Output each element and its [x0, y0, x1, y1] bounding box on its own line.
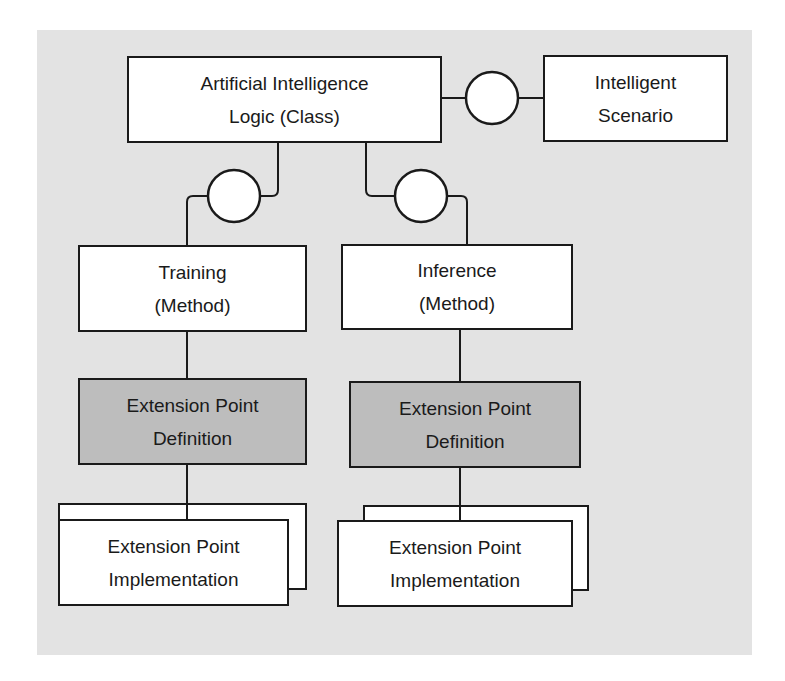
ai-logic-label-line2: Logic (Class)	[229, 100, 340, 133]
training-label-line1: Training	[159, 256, 227, 289]
scenario-label-line2: Scenario	[598, 99, 673, 132]
connector-ai-to-training-interface	[260, 142, 278, 196]
inference-implementation-label-line2: Implementation	[390, 564, 520, 597]
training-implementation-label-line2: Implementation	[109, 563, 239, 596]
scenario-label-line1: Intelligent	[595, 66, 676, 99]
inference-definition-label-line2: Definition	[425, 425, 504, 458]
inference-label-line1: Inference	[417, 254, 496, 287]
inference-extension-point-definition-box: Extension Point Definition	[349, 381, 581, 468]
training-interface-circle	[208, 170, 260, 222]
training-implementation-label-line1: Extension Point	[107, 530, 239, 563]
inference-implementation-label-line1: Extension Point	[389, 531, 521, 564]
inference-method-box: Inference (Method)	[341, 244, 573, 330]
training-definition-label-line1: Extension Point	[126, 389, 258, 422]
connector-inference-interface-to-inference	[447, 196, 467, 244]
training-definition-label-line2: Definition	[153, 422, 232, 455]
ai-logic-class-box: Artificial Intelligence Logic (Class)	[127, 56, 442, 143]
intelligent-scenario-box: Intelligent Scenario	[543, 55, 728, 142]
training-extension-point-implementation-box: Extension Point Implementation	[58, 519, 289, 606]
connector-training-interface-to-training	[187, 196, 208, 245]
scenario-interface-circle	[466, 72, 518, 124]
inference-label-line2: (Method)	[419, 287, 495, 320]
inference-interface-circle	[395, 170, 447, 222]
ai-logic-label-line1: Artificial Intelligence	[201, 67, 369, 100]
training-extension-point-definition-box: Extension Point Definition	[78, 378, 307, 465]
training-method-box: Training (Method)	[78, 245, 307, 332]
inference-definition-label-line1: Extension Point	[399, 392, 531, 425]
connector-ai-to-inference-interface	[366, 142, 395, 196]
training-label-line2: (Method)	[154, 289, 230, 322]
inference-extension-point-implementation-box: Extension Point Implementation	[337, 520, 573, 607]
